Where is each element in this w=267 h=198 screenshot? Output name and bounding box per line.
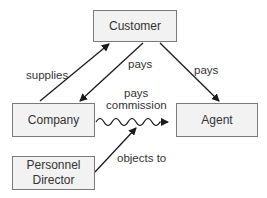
pays-commission-label-line2: commission xyxy=(106,99,167,111)
pays-commission-label-line1: pays xyxy=(124,87,148,99)
company-label: Company xyxy=(28,113,79,128)
pays-agent-label: pays xyxy=(194,64,218,76)
supplies-label: supplies xyxy=(26,69,68,81)
customer-label: Customer xyxy=(109,19,161,34)
personnel-director-node: Personnel Director xyxy=(12,156,95,190)
company-node: Company xyxy=(12,103,95,137)
objects-to-label: objects to xyxy=(117,152,166,164)
agent-node: Agent xyxy=(176,103,258,137)
pays-company-label: pays xyxy=(128,58,152,70)
personnel-director-label-line1: Personnel xyxy=(26,158,80,173)
agent-label: Agent xyxy=(201,113,232,128)
pays-commission-wavy-arrow xyxy=(96,119,168,126)
customer-node: Customer xyxy=(93,10,177,42)
objects-to-arrow xyxy=(95,128,136,172)
personnel-director-label-line2: Director xyxy=(32,173,74,188)
